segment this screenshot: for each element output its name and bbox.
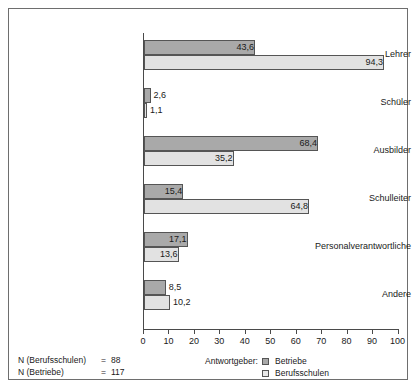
bar-chart-figure: 0102030405060708090100Lehrer43,694,3Schü… <box>0 0 417 387</box>
sample-size-notes: N (Berufsschulen)=88N (Betriebe)=117 <box>18 354 125 378</box>
plot-area: 0102030405060708090100Lehrer43,694,3Schü… <box>0 0 417 387</box>
x-axis-tick <box>321 329 322 334</box>
x-axis-tick <box>270 329 271 334</box>
category-label: Personalverantwortliche <box>284 241 417 251</box>
bar-berufsschulen <box>144 295 170 310</box>
sample-size-equals: = <box>101 354 111 366</box>
sample-size-label: N (Betriebe) <box>18 366 101 378</box>
sample-size-label: N (Berufsschulen) <box>18 354 101 366</box>
legend-title: Antwortgeber: <box>205 356 258 366</box>
sample-size-row: N (Betriebe)=117 <box>18 366 125 378</box>
legend-items: BetriebeBerufsschulen <box>262 355 329 379</box>
x-axis-tick <box>143 329 144 334</box>
sample-size-equals: = <box>101 366 111 378</box>
bar-value-label: 1,1 <box>146 103 190 118</box>
x-axis-tick <box>168 329 169 334</box>
legend-item-label: Berufsschulen <box>275 368 329 378</box>
legend-swatch-icon <box>262 358 269 365</box>
bar-value-label: 2,6 <box>150 88 194 103</box>
category-label: Andere <box>284 289 417 299</box>
x-axis-tick <box>296 329 297 334</box>
bar-value-label: 94,3 <box>143 55 387 70</box>
legend-swatch-icon <box>262 370 269 377</box>
sample-size-value: 88 <box>111 355 120 365</box>
legend-item[interactable]: Berufsschulen <box>262 367 329 379</box>
sample-size-row: N (Berufsschulen)=88 <box>18 354 125 366</box>
x-axis-tick <box>372 329 373 334</box>
x-axis-tick <box>219 329 220 334</box>
category-label: Schüler <box>284 97 417 107</box>
legend-item-label: Betriebe <box>275 356 307 366</box>
bar-value-label: 13,6 <box>143 247 182 262</box>
x-axis-tick-label: 100 <box>383 336 413 346</box>
bar-value-label: 43,6 <box>143 40 258 55</box>
bar-value-label: 8,5 <box>165 280 209 295</box>
bar-value-label: 10,2 <box>169 295 213 310</box>
bar-value-label: 17,1 <box>143 232 191 247</box>
bar-betriebe <box>144 280 166 295</box>
bar-value-label: 35,2 <box>143 151 237 166</box>
bar-value-label: 64,8 <box>143 199 312 214</box>
x-axis-tick <box>245 329 246 334</box>
x-axis-tick <box>194 329 195 334</box>
legend-item[interactable]: Betriebe <box>262 355 329 367</box>
bar-value-label: 68,4 <box>143 136 321 151</box>
sample-size-value: 117 <box>111 367 125 377</box>
x-axis-tick <box>347 329 348 334</box>
x-axis-tick <box>398 329 399 334</box>
bar-value-label: 15,4 <box>143 184 186 199</box>
